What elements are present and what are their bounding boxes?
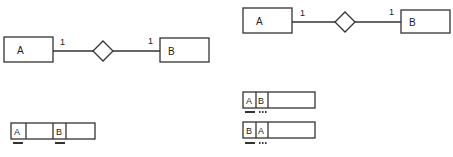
- cardinality-b-label: 1: [148, 36, 153, 46]
- cardinality-a-label: 1: [60, 37, 65, 47]
- right-er-diagram: A 1 1 B: [243, 7, 450, 33]
- diagram-canvas: A 1 1 B A 1 1 B A B A B: [0, 0, 453, 157]
- entity-a-box: [243, 8, 292, 33]
- right-relation-table-2: B A: [243, 122, 315, 143]
- entity-b-label: B: [409, 17, 416, 28]
- entity-a-label: A: [17, 45, 24, 56]
- relationship-diamond: [93, 41, 113, 61]
- cell-b: B: [258, 96, 264, 106]
- relationship-diamond: [335, 12, 355, 32]
- entity-a-label: A: [256, 16, 263, 27]
- table-outline: [243, 122, 315, 138]
- left-relation-table: A B: [11, 123, 95, 143]
- cell-b: B: [246, 126, 252, 136]
- entity-a-box: [4, 37, 53, 62]
- entity-b-label: B: [168, 46, 175, 57]
- cell-a: A: [14, 127, 20, 137]
- table-outline: [243, 92, 315, 108]
- right-relation-table-1: A B: [243, 92, 315, 112]
- cardinality-b-label: 1: [389, 7, 394, 17]
- cell-a: A: [246, 96, 252, 106]
- cell-b: B: [56, 127, 62, 137]
- cardinality-a-label: 1: [300, 8, 305, 18]
- cell-a: A: [258, 126, 264, 136]
- left-er-diagram: A 1 1 B: [4, 36, 209, 62]
